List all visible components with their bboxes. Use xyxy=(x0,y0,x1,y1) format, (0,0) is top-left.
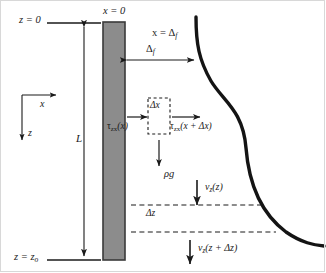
x-axis-label: x xyxy=(40,99,44,109)
z-axis-label: z xyxy=(28,128,32,138)
z-bottom-label: z = zo xyxy=(14,252,38,263)
film-thickness-label: Δf xyxy=(146,44,155,55)
diagram-canvas xyxy=(0,0,326,273)
film-surface-curve xyxy=(196,17,324,246)
length-label: L xyxy=(76,133,82,144)
wall-slab xyxy=(103,22,125,260)
z-top-label: z = 0 xyxy=(19,15,41,26)
shear-stress-left-label: τzx(x) xyxy=(107,122,128,132)
x-film-label: x = Δf xyxy=(152,28,177,39)
velocity-out-label: vz(z + Δz) xyxy=(198,243,237,255)
gravity-label: ρg xyxy=(164,169,174,180)
shear-stress-right-label: τzx(x + Δx) xyxy=(170,122,212,132)
falling-film-diagram: z = 0 x = 0 x = Δf Δf L x z Δx τzx(x) τz… xyxy=(0,0,326,273)
velocity-in-label: vz(z) xyxy=(205,182,223,194)
x-wall-label: x = 0 xyxy=(103,6,125,17)
delta-x-label: Δx xyxy=(150,101,160,111)
delta-z-label: Δz xyxy=(146,209,155,219)
